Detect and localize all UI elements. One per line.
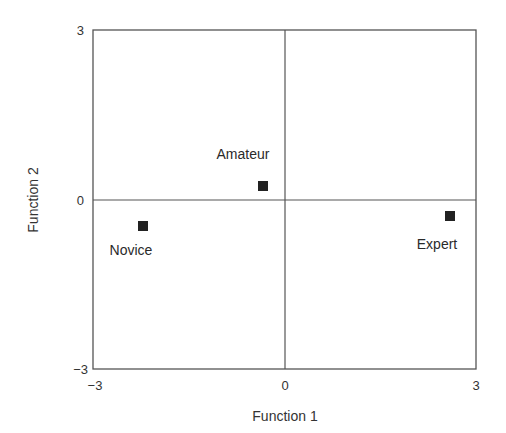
x-axis-title: Function 1 [252, 408, 318, 424]
chart-svg: 3 0 −3 −3 0 3 Function 1 Function 2 Novi… [0, 0, 506, 433]
point-marker-novice [138, 221, 148, 231]
x-tick-label-left: −3 [88, 378, 103, 393]
x-tick-label-right: 3 [472, 378, 479, 393]
y-axis-title: Function 2 [25, 167, 41, 233]
y-tick-label-zero: 0 [77, 193, 84, 208]
y-tick-label-top: 3 [77, 23, 84, 38]
point-label-amateur: Amateur [217, 146, 270, 162]
data-points: Novice Amateur Expert [110, 146, 458, 258]
x-tick-label-zero: 0 [281, 378, 288, 393]
point-label-novice: Novice [110, 242, 153, 258]
point-marker-amateur [258, 181, 268, 191]
point-label-expert: Expert [417, 236, 458, 252]
scatter-chart: 3 0 −3 −3 0 3 Function 1 Function 2 Novi… [0, 0, 506, 433]
y-tick-label-bottom: −3 [73, 362, 88, 377]
point-marker-expert [445, 211, 455, 221]
